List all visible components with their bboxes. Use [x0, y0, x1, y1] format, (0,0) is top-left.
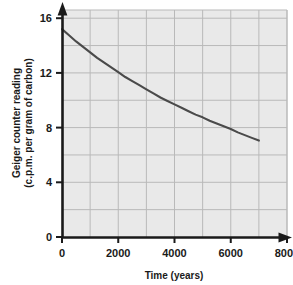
y-tick-label: 12	[40, 67, 52, 79]
y-tick-label: 0	[46, 231, 52, 243]
geiger-decay-chart: 0481216 02000400060008000 Time (years) G…	[0, 0, 293, 285]
x-axis-title: Time (years)	[145, 270, 204, 281]
x-tick-label: 2000	[106, 247, 130, 259]
x-tick-label: 0	[59, 247, 65, 259]
x-tick-label: 8000	[275, 247, 293, 259]
x-tick-label: 4000	[162, 247, 186, 259]
y-tick-label: 8	[46, 122, 52, 134]
y-axis-title-line2: (c.p.m. per gram of carbon)	[23, 58, 34, 187]
y-axis-tick-labels: 0481216	[40, 12, 53, 243]
x-tick-label: 6000	[219, 247, 243, 259]
x-axis-tick-labels: 02000400060008000	[59, 247, 293, 259]
y-axis-ticks	[56, 18, 62, 237]
chart-container: 0481216 02000400060008000 Time (years) G…	[0, 0, 293, 285]
y-tick-label: 16	[40, 12, 52, 24]
y-axis-title-line1: Geiger counter reading	[11, 68, 22, 178]
y-axis-arrowhead	[58, 2, 68, 16]
y-tick-label: 4	[46, 176, 53, 188]
